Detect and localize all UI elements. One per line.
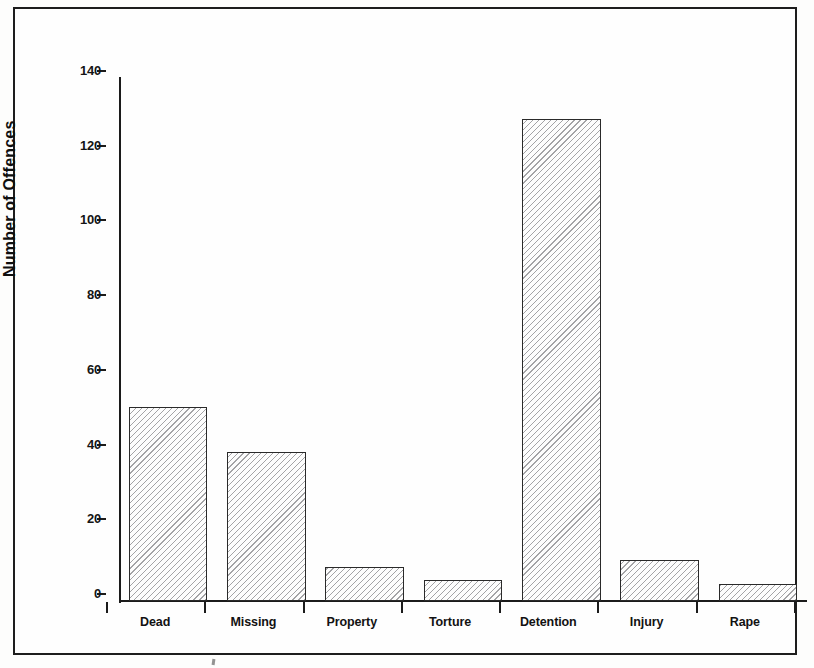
y-axis-tick-label: 0 [94, 586, 101, 601]
x-axis-tick-mark [303, 602, 305, 613]
x-axis-tick-label: Injury [630, 615, 663, 629]
figure-frame: Number of Offences 020406080100120140 De… [13, 7, 797, 655]
y-axis-tick-label: 120 [80, 137, 101, 152]
x-axis-tick-label: Rape [730, 615, 760, 629]
x-axis-tick-label: Torture [429, 615, 471, 629]
x-axis-tick-label: Property [326, 615, 377, 629]
x-axis-tick-mark [106, 602, 108, 613]
plot-area [120, 79, 805, 601]
x-axis-tick-mark [204, 602, 206, 613]
x-axis-tick-mark [401, 602, 403, 613]
bar [325, 567, 404, 601]
bar [719, 584, 798, 601]
x-axis-tick-label: Dead [140, 615, 170, 629]
bar [227, 452, 306, 601]
y-axis-tick-label: 80 [87, 287, 101, 302]
x-axis-tick-mark [794, 602, 796, 613]
bar [424, 580, 503, 601]
bar [620, 560, 699, 601]
y-axis-title: Number of Offences [1, 120, 19, 277]
y-axis-tick-label: 140 [80, 63, 101, 78]
y-axis-tick-label: 60 [87, 361, 101, 376]
x-axis-tick-mark [696, 602, 698, 613]
scan-artifact-speck [212, 659, 216, 665]
x-axis-tick-mark [597, 602, 599, 613]
x-axis-tick-label: Detention [520, 615, 577, 629]
x-axis-tick-mark [499, 602, 501, 613]
figure-page: Number of Offences 020406080100120140 De… [0, 0, 814, 668]
y-axis-tick-label: 20 [87, 511, 101, 526]
bar [522, 119, 601, 601]
y-axis-tick-label: 40 [87, 436, 101, 451]
y-axis-tick-label: 100 [80, 212, 101, 227]
x-axis-tick-label: Missing [231, 615, 277, 629]
bar [129, 407, 208, 601]
